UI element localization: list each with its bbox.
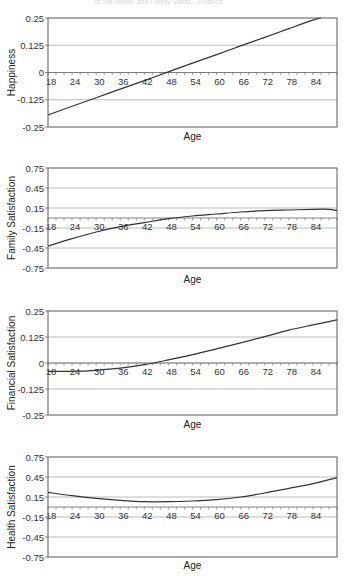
- x-tick-label: 60: [214, 510, 225, 521]
- y-tick-label: 0: [39, 67, 44, 78]
- x-tick-label: 60: [214, 76, 225, 87]
- health-satisfaction-chart: 0.750.450.15-0.15-0.45-0.751824303642485…: [0, 437, 352, 576]
- x-tick-label: 18: [46, 221, 57, 232]
- x-tick-label: 84: [311, 76, 322, 87]
- x-tick-label: 60: [214, 221, 225, 232]
- happiness-chart: 0.250.1250-0.125-0.251824303642485460667…: [0, 0, 352, 148]
- x-tick-label: 72: [262, 366, 273, 377]
- x-tick-label: 42: [142, 366, 153, 377]
- x-tick-label: 42: [142, 510, 153, 521]
- y-tick-label: 0.75: [26, 163, 45, 174]
- x-tick-label: 54: [190, 510, 201, 521]
- x-tick-label: 48: [166, 76, 177, 87]
- chart-svg: 0.250.1250-0.125-0.251824303642485460667…: [0, 0, 352, 148]
- x-tick-label: 24: [70, 510, 81, 521]
- x-tick-label: 84: [311, 510, 322, 521]
- series-line: [48, 478, 337, 502]
- x-axis-title: Age: [184, 419, 202, 430]
- x-tick-label: 36: [118, 76, 129, 87]
- x-tick-label: 48: [166, 366, 177, 377]
- x-axis-title: Age: [184, 274, 202, 285]
- x-tick-label: 30: [94, 510, 105, 521]
- x-tick-label: 72: [262, 510, 273, 521]
- y-tick-label: -0.125: [17, 384, 44, 395]
- x-tick-label: 30: [94, 366, 105, 377]
- x-tick-label: 54: [190, 221, 201, 232]
- y-tick-label: 0.125: [20, 40, 44, 51]
- y-tick-label: -0.15: [22, 512, 44, 523]
- y-tick-label: -0.25: [22, 122, 44, 133]
- y-axis-title: Financial Satisfaction: [6, 316, 17, 411]
- y-tick-label: 0.25: [26, 306, 45, 317]
- x-axis-title: Age: [184, 131, 202, 142]
- y-tick-label: 0: [39, 358, 44, 369]
- x-tick-label: 66: [238, 510, 249, 521]
- series-line: [48, 18, 321, 115]
- chart-svg: 0.750.450.15-0.15-0.45-0.751824303642485…: [0, 437, 352, 576]
- y-tick-label: 0.15: [26, 492, 45, 503]
- y-tick-label: -0.75: [22, 552, 44, 563]
- y-tick-label: 0.15: [26, 203, 45, 214]
- x-axis-title: Age: [184, 560, 202, 571]
- x-tick-label: 18: [46, 510, 57, 521]
- x-tick-label: 66: [238, 366, 249, 377]
- y-tick-label: 0.25: [26, 13, 45, 24]
- y-axis-title: Happiness: [6, 49, 17, 96]
- y-tick-label: 0.45: [26, 472, 45, 483]
- y-tick-label: -0.15: [22, 223, 44, 234]
- y-tick-label: -0.125: [17, 94, 44, 105]
- x-tick-label: 24: [70, 221, 81, 232]
- x-tick-label: 66: [238, 76, 249, 87]
- y-tick-label: -0.45: [22, 532, 44, 543]
- x-tick-label: 72: [262, 76, 273, 87]
- x-tick-label: 24: [70, 76, 81, 87]
- y-tick-label: -0.75: [22, 263, 44, 274]
- chart-svg: 0.750.450.15-0.15-0.45-0.751824303642485…: [0, 148, 352, 290]
- y-tick-label: 0.75: [26, 452, 45, 463]
- x-tick-label: 60: [214, 366, 225, 377]
- x-tick-label: 48: [166, 510, 177, 521]
- x-tick-label: 36: [118, 510, 129, 521]
- chart-svg: 0.250.1250-0.125-0.251824303642485460667…: [0, 290, 352, 437]
- y-tick-label: -0.45: [22, 243, 44, 254]
- x-tick-label: 54: [190, 366, 201, 377]
- x-tick-label: 84: [311, 366, 322, 377]
- y-tick-label: 0.45: [26, 183, 45, 194]
- family-satisfaction-chart: 0.750.450.15-0.15-0.45-0.751824303642485…: [0, 148, 352, 290]
- x-tick-label: 78: [287, 221, 298, 232]
- y-tick-label: 0.125: [20, 332, 44, 343]
- x-tick-label: 78: [287, 510, 298, 521]
- x-tick-label: 18: [46, 76, 57, 87]
- x-tick-label: 84: [311, 221, 322, 232]
- y-axis-title: Family Satisfaction: [6, 176, 17, 260]
- financial-satisfaction-chart: 0.250.1250-0.125-0.251824303642485460667…: [0, 290, 352, 437]
- y-axis-title: Health Satisfaction: [6, 465, 17, 548]
- x-tick-label: 54: [190, 76, 201, 87]
- x-tick-label: 78: [287, 366, 298, 377]
- x-tick-label: 30: [94, 76, 105, 87]
- x-tick-label: 66: [238, 221, 249, 232]
- y-tick-label: -0.25: [22, 410, 44, 421]
- x-tick-label: 48: [166, 221, 177, 232]
- x-tick-label: 72: [262, 221, 273, 232]
- x-tick-label: 78: [287, 76, 298, 87]
